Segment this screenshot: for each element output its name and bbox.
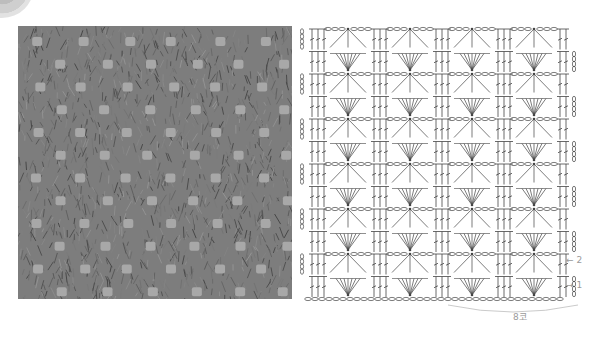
chain-stitch xyxy=(394,162,401,165)
fan-stroke xyxy=(410,234,418,251)
lace-hole xyxy=(34,128,44,137)
lace-hole xyxy=(261,37,271,46)
lace-hole xyxy=(121,173,131,182)
lace-hole xyxy=(279,105,289,114)
chain-stitch xyxy=(339,72,346,75)
triangle-stroke xyxy=(534,254,552,273)
lace-hole xyxy=(80,264,90,273)
lace-hole xyxy=(278,287,288,296)
fan-base-dot xyxy=(533,114,536,117)
lace-hole xyxy=(257,82,267,91)
chain-stitch xyxy=(394,207,401,210)
fan-stroke xyxy=(340,189,348,206)
chain-stitch xyxy=(544,117,551,120)
lace-hole xyxy=(35,82,45,91)
lace-hole xyxy=(259,173,269,182)
chain-stitch xyxy=(365,72,372,75)
triangle-stroke xyxy=(454,119,472,138)
chain-stitch xyxy=(401,207,408,210)
chain-stitch xyxy=(501,297,508,300)
triangle-stroke xyxy=(516,254,534,273)
fan-stroke xyxy=(340,144,348,161)
chain-stitch xyxy=(515,297,522,300)
chain-stitch xyxy=(361,297,368,300)
fan-base-dot xyxy=(471,114,474,117)
chain-stitch xyxy=(456,27,463,30)
fan-base-dot xyxy=(471,204,474,207)
triangle-apex-dot xyxy=(347,28,350,31)
triangle-stroke xyxy=(392,254,410,273)
chain-stitch xyxy=(365,117,372,120)
chain-stitch xyxy=(401,252,408,255)
chain-stitch xyxy=(427,207,434,210)
fan-base-dot xyxy=(347,204,350,207)
fan-stroke xyxy=(464,279,472,296)
chain-stitch xyxy=(518,207,525,210)
chain-stitch xyxy=(417,297,424,300)
fan-stroke xyxy=(472,279,480,296)
triangle-stroke xyxy=(348,74,366,93)
lace-hole xyxy=(166,128,176,137)
chain-stitch xyxy=(557,297,564,300)
lace-hole xyxy=(146,60,156,69)
chain-stitch xyxy=(473,297,480,300)
triangle-stroke xyxy=(330,254,348,273)
fan-stroke xyxy=(534,144,542,161)
triangle-apex-dot xyxy=(533,118,536,121)
chain-stitch xyxy=(550,297,557,300)
fan-stroke xyxy=(472,54,480,71)
swatch-photo xyxy=(18,26,292,299)
chain-stitch xyxy=(333,297,340,300)
triangle-apex-dot xyxy=(409,253,412,256)
lace-hole xyxy=(103,60,113,69)
lace-hole xyxy=(122,128,132,137)
chain-stitch xyxy=(482,207,489,210)
fan-stroke xyxy=(410,54,418,71)
lace-hole xyxy=(189,242,199,251)
fan-base-dot xyxy=(533,69,536,72)
fan-stroke xyxy=(410,144,418,161)
lace-hole xyxy=(99,105,109,114)
fan-stroke xyxy=(534,279,542,296)
chain-stitch xyxy=(401,72,408,75)
lace-hole xyxy=(166,219,176,228)
chain-stitch xyxy=(420,252,427,255)
chain-stitch xyxy=(351,162,358,165)
chain-stitch xyxy=(482,252,489,255)
triangle-stroke xyxy=(534,119,552,138)
chain-stitch xyxy=(339,117,346,120)
triangle-apex-dot xyxy=(347,118,350,121)
triangle-apex-dot xyxy=(533,253,536,256)
chain-stitch xyxy=(375,297,382,300)
chain-stitch xyxy=(332,27,339,30)
fan-stroke xyxy=(402,189,410,206)
fan-stroke xyxy=(534,234,542,251)
fan-stroke xyxy=(526,54,534,71)
fan-stroke xyxy=(340,54,348,71)
chain-stitch xyxy=(438,297,445,300)
chain-stitch xyxy=(463,207,470,210)
triangle-stroke xyxy=(392,119,410,138)
fan-stroke xyxy=(340,234,348,251)
chain-stitch xyxy=(420,27,427,30)
lace-hole xyxy=(31,173,41,182)
triangle-stroke xyxy=(348,119,366,138)
triangle-stroke xyxy=(454,209,472,228)
chain-stitch xyxy=(551,72,558,75)
chain-stitch xyxy=(544,27,551,30)
triangle-stroke xyxy=(330,209,348,228)
triangle-stroke xyxy=(516,29,534,48)
chain-stitch xyxy=(340,297,347,300)
triangle-stroke xyxy=(392,164,410,183)
fan-stroke xyxy=(410,99,418,116)
fan-base-dot xyxy=(471,294,474,297)
chain-stitch xyxy=(354,297,361,300)
lace-hole xyxy=(125,37,135,46)
lace-hole xyxy=(75,173,85,182)
row-1-label: → 1 xyxy=(566,280,582,290)
chain-stitch xyxy=(463,252,470,255)
triangle-apex-dot xyxy=(533,208,536,211)
fan-base-dot xyxy=(471,249,474,252)
chain-stitch xyxy=(420,207,427,210)
chain-stitch xyxy=(537,27,544,30)
